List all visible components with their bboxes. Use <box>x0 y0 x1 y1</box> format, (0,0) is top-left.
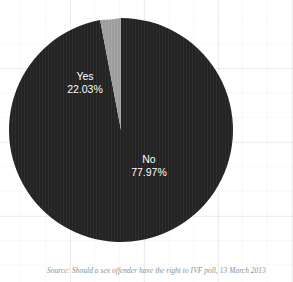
chart-source-note: Source: Should a sex offender have the r… <box>47 266 293 275</box>
pie-chart: Yes 22.03% No 77.97% <box>0 0 293 258</box>
pie-chart-page: Yes 22.03% No 77.97% Source: Should a se… <box>0 0 293 282</box>
pie-chart-svg <box>0 0 293 258</box>
